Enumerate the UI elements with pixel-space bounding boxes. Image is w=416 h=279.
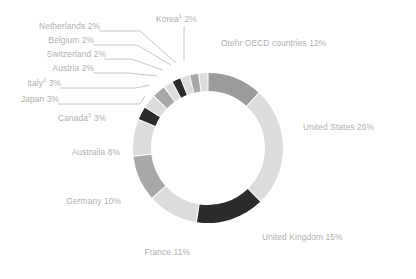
slice-label-canada: Canada3 3% [58,113,106,123]
slice-label-korea-footnote: 1 [179,13,182,19]
slice-label-austria-name: Austria [52,63,79,73]
slice-label-australia-name: Australia [72,147,105,157]
slice-label-japan: Japan 3% [21,94,59,104]
slice-label-united-states: United States 26% [303,122,374,132]
slice-label-united-states-name: United States [303,122,355,132]
donut-slice-united-states [247,93,283,201]
slice-label-united-states-pct: 26% [357,122,374,132]
slice-label-canada-pct: 3% [94,113,106,123]
slice-label-japan-name: Japan [21,94,44,104]
leader-line-netherlands [99,31,176,63]
leader-line-italy [60,85,150,88]
slice-label-belgium-pct: 2% [82,35,94,45]
slice-label-netherlands: Netherlands 2% [39,21,100,31]
donut-segments [133,73,283,223]
slice-label-korea-name: Korea [156,14,179,24]
donut-slice-united-kingdom [197,189,260,223]
slice-label-switzerland: Switzerland 2% [47,49,106,59]
donut-slice-australia [133,120,155,155]
slice-label-belgium-name: Belgium [48,35,79,45]
slice-label-canada-footnote: 3 [88,112,91,118]
slice-label-united-kingdom-pct: 15% [325,232,342,242]
slice-label-australia-pct: 8% [108,147,120,157]
slice-label-japan-pct: 3% [47,94,59,104]
donut-slice-germany [134,155,166,198]
slice-label-korea: Korea1 2% [156,14,197,24]
slice-label-otehr-oecd-countries-pct: 12% [309,38,326,48]
slice-label-korea-pct: 2% [185,14,197,24]
slice-label-italy: Italy2 3% [27,78,61,88]
donut-chart: Netherlands 2% Belgium 2% Switzerland 2%… [0,0,416,279]
slice-label-france-name: France [144,247,171,257]
leader-line-switzerland [104,59,163,70]
slice-label-germany-name: Germany [66,196,101,206]
slice-label-germany: Germany 10% [66,196,121,206]
slice-label-italy-pct: 3% [49,78,61,88]
slice-label-united-kingdom-name: United Kingdom [262,232,323,242]
slice-label-austria-pct: 2% [82,63,94,73]
slice-label-italy-name: Italy [27,78,43,88]
slice-label-otehr-oecd-countries: Otehr OECD countries 12% [221,38,326,48]
slice-label-netherlands-pct: 2% [88,21,100,31]
slice-label-switzerland-name: Switzerland [47,49,91,59]
leader-line-japan [58,96,145,104]
slice-label-canada-name: Canada [58,113,88,123]
slice-label-australia: Australia 8% [72,147,120,157]
slice-label-italy-footnote: 2 [43,77,46,83]
slice-label-france: France 11% [144,247,190,257]
slice-label-otehr-oecd-countries-name: Otehr OECD countries [221,38,307,48]
donut-slice-korea [199,73,207,91]
slice-label-united-kingdom: United Kingdom 15% [262,232,343,242]
slice-label-france-pct: 11% [174,247,190,257]
donut-slice-otehr-oecd-countries [208,73,258,106]
slice-label-germany-pct: 10% [104,196,121,206]
slice-label-belgium: Belgium 2% [48,35,94,45]
slice-label-switzerland-pct: 2% [94,49,106,59]
slice-label-austria: Austria 2% [52,63,94,73]
leader-line-austria [93,73,157,76]
donut-slice-france [153,186,199,222]
slice-label-netherlands-name: Netherlands [39,21,85,31]
